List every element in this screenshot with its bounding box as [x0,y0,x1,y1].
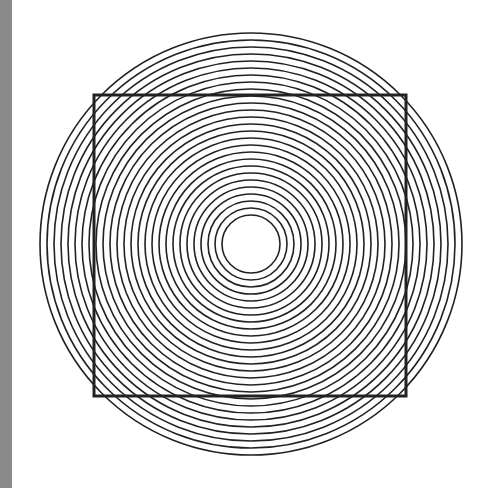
ring-circle [145,138,357,350]
ring-circle [103,96,399,392]
ring-circle [131,124,371,364]
ring-circle [166,159,336,329]
ring-circle [215,208,287,280]
ring-circle [173,166,329,322]
ring-circle [208,201,294,287]
ring-circle [187,180,315,308]
ring-circle [68,61,434,427]
ring-circle [138,131,364,357]
ring-circle [201,194,301,294]
ring-circle [75,68,427,420]
ring-circle [152,145,350,343]
ring-circle [47,40,455,448]
ring-circle [96,89,406,399]
ring-circle [61,54,441,434]
ring-circle [124,117,378,371]
illusion-figure [0,0,503,488]
ring-circle [117,110,385,378]
ring-circle [54,47,448,441]
ring-circle [222,215,280,273]
overlay-square [94,95,406,396]
ring-circle [82,75,420,413]
ring-circle [194,187,308,301]
